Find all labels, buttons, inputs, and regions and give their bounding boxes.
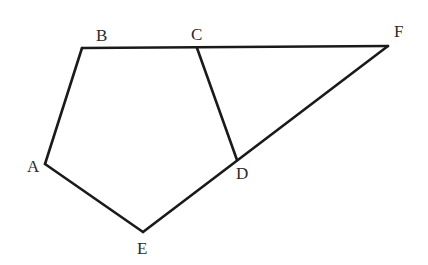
label-c: C: [191, 25, 202, 44]
label-f: F: [394, 22, 403, 41]
geometry-diagram: A B C D E F: [0, 0, 428, 265]
label-b: B: [96, 26, 107, 45]
segment-cd: [197, 48, 237, 160]
segment-ae: [45, 164, 143, 232]
segment-bf: [82, 46, 388, 48]
segment-ab: [45, 48, 82, 164]
label-e: E: [137, 239, 147, 258]
label-d: D: [236, 164, 248, 183]
segment-ef: [143, 46, 388, 232]
segments: [45, 46, 388, 232]
vertex-labels: A B C D E F: [27, 22, 403, 258]
label-a: A: [27, 157, 40, 176]
